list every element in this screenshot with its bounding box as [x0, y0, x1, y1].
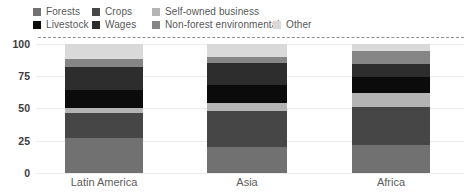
bar-segment-africa-forests: [352, 145, 430, 173]
bar-segment-latin-america-crops: [65, 113, 143, 138]
y-axis-tick-0: 0: [0, 167, 30, 179]
bar-segment-africa-self-owned-business: [352, 93, 430, 107]
bar-segment-latin-america-wages: [65, 67, 143, 90]
bar-segment-asia-crops: [207, 111, 287, 147]
y-axis-tick-100: 100: [0, 38, 30, 50]
bar-segment-latin-america-other: [65, 44, 143, 60]
bar-segment-africa-non-forest-environmental: [352, 51, 430, 64]
bar-segment-asia-other: [207, 44, 287, 57]
bar-segment-asia-forests: [207, 147, 287, 173]
bar-segment-latin-america-forests: [65, 138, 143, 173]
y-axis-tick-50: 50: [0, 102, 30, 114]
bar-africa: [352, 44, 430, 173]
bar-segment-africa-crops: [352, 107, 430, 145]
bar-segment-latin-america-livestock: [65, 90, 143, 108]
stacked-bar-chart: ForestsCropsSelf-owned businessLivestock…: [0, 0, 469, 193]
x-axis-label-latin-america: Latin America: [65, 176, 143, 188]
gridline-0: [36, 173, 464, 174]
x-axis-label-asia: Asia: [207, 176, 287, 188]
bar-latin-america: [65, 44, 143, 173]
bar-segment-africa-other: [352, 44, 430, 52]
plot-top-dashed-line: [38, 37, 464, 38]
bar-segment-asia-wages: [207, 63, 287, 85]
y-axis-tick-75: 75: [0, 70, 30, 82]
bar-segment-africa-livestock: [352, 77, 430, 93]
bar-segment-asia-self-owned-business: [207, 103, 287, 111]
y-axis-tick-25: 25: [0, 135, 30, 147]
x-axis-label-africa: Africa: [352, 176, 430, 188]
bar-asia: [207, 44, 287, 173]
bar-segment-latin-america-non-forest-environmental: [65, 59, 143, 67]
bar-segment-asia-livestock: [207, 85, 287, 103]
plot-area: 0255075100Latin AmericaAsiaAfrica: [0, 0, 469, 193]
bar-segment-africa-wages: [352, 64, 430, 77]
